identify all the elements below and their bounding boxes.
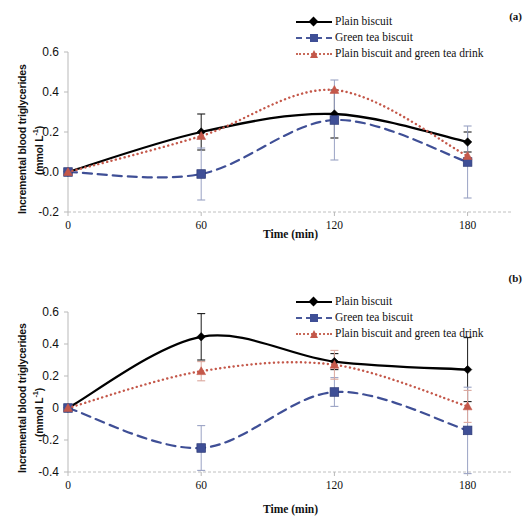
x-axis-tick-label: 120	[326, 219, 344, 231]
series-markers	[64, 116, 472, 179]
x-axis-tick-label: 120	[326, 479, 344, 491]
y-axis-tick-label: -0.4	[38, 465, 59, 479]
series-line	[68, 90, 468, 172]
panel-a-svg: -0.20.00.20.40.6060120180	[0, 0, 528, 260]
series-line	[68, 335, 468, 408]
figure-panel-b: (b) Plain biscuit Green tea biscuit Plai…	[0, 260, 528, 519]
x-axis-tick-label: 0	[65, 479, 71, 491]
y-axis-tick-label: 0.2	[42, 125, 59, 139]
x-axis-tick-label: 180	[459, 219, 477, 231]
y-axis-tick-label: 0	[52, 401, 59, 415]
y-axis-tick-label: 0.4	[42, 337, 59, 351]
panel-b-plot-area: -0.4-0.200.20.40.6060120180	[0, 260, 528, 519]
panel-a-plot-area: -0.20.00.20.40.6060120180	[0, 0, 528, 260]
series-line	[68, 120, 468, 178]
y-axis-tick-label: -0.2	[38, 433, 59, 447]
series-line	[68, 392, 468, 448]
figure-panel-a: (a) Plain biscuit Green tea biscuit Plai…	[0, 0, 528, 260]
panel-b-svg: -0.4-0.200.20.40.6060120180	[0, 260, 528, 519]
x-axis-tick-label: 180	[459, 479, 477, 491]
y-axis-tick-label: 0.2	[42, 369, 59, 383]
x-axis-tick-label: 0	[65, 219, 71, 231]
y-axis-tick-label: 0.6	[42, 305, 59, 319]
x-axis-tick-label: 60	[195, 479, 207, 491]
x-axis-tick-label: 60	[195, 219, 207, 231]
y-axis-tick-label: -0.2	[38, 205, 59, 219]
y-axis-tick-label: 0.0	[42, 165, 59, 179]
series-line	[68, 114, 468, 172]
y-axis-tick-label: 0.6	[42, 45, 59, 59]
series-markers	[64, 86, 472, 176]
y-axis-tick-label: 0.4	[42, 85, 59, 99]
